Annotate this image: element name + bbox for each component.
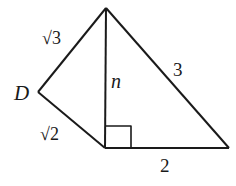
label-side-bottom-left: √2 [40, 124, 59, 144]
label-side-base: 2 [160, 155, 170, 176]
geometry-diagram: √3 D n 3 √2 2 [0, 0, 236, 186]
label-side-vertical-n: n [111, 70, 121, 92]
right-angle-marker [105, 126, 131, 148]
segment-top-to-d [38, 8, 106, 92]
label-side-hypotenuse: 3 [173, 59, 183, 80]
segment-hypotenuse [106, 8, 229, 148]
segment-vertical-n [105, 8, 106, 148]
label-vertex-d: D [13, 81, 29, 105]
label-side-top-left: √3 [42, 28, 61, 48]
